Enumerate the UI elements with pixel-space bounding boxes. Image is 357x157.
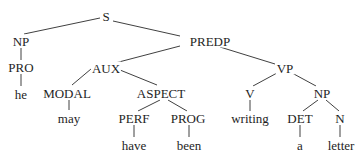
- node-aspect: ASPECT: [136, 87, 186, 100]
- edge-s-np1: [24, 18, 100, 34]
- node-have: have: [121, 139, 148, 152]
- edge-aspect-perf: [138, 100, 160, 111]
- edge-aux-modal: [72, 69, 91, 85]
- node-vp: VP: [276, 62, 295, 75]
- node-may: may: [57, 112, 81, 125]
- edge-vp-np2: [292, 73, 316, 86]
- node-pro: PRO: [7, 61, 34, 74]
- node-det: DET: [286, 112, 313, 125]
- node-writing: writing: [230, 112, 270, 125]
- tree-edges: [0, 0, 357, 157]
- node-aux: AUX: [91, 62, 121, 75]
- syntax-tree: SNPPREDPPROheAUXVPMODALmayASPECTPERFhave…: [0, 0, 357, 157]
- node-s: S: [101, 10, 110, 23]
- edge-predp-aux: [115, 46, 180, 63]
- node-he: he: [14, 88, 28, 101]
- node-n: N: [334, 112, 345, 125]
- node-been: been: [176, 139, 203, 152]
- edge-aux-aspect: [120, 70, 157, 85]
- node-np1: NP: [12, 35, 31, 48]
- node-a: a: [296, 139, 304, 152]
- node-letter: letter: [327, 139, 356, 152]
- node-modal: MODAL: [42, 87, 92, 100]
- node-prog: PROG: [170, 112, 207, 125]
- node-np2: NP: [313, 87, 332, 100]
- edge-predp-vp: [220, 47, 275, 64]
- edge-vp-v: [253, 73, 277, 86]
- edge-s-predp: [113, 21, 180, 36]
- edge-np2-n: [326, 100, 339, 111]
- edge-np2-det: [303, 100, 318, 111]
- node-perf: PERF: [117, 112, 150, 125]
- node-v: V: [244, 87, 255, 100]
- node-predp: PREDP: [189, 35, 231, 48]
- edge-aspect-prog: [168, 100, 187, 111]
